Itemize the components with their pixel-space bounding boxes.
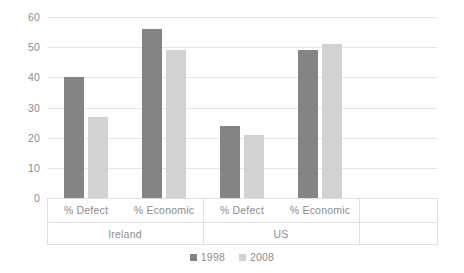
- category-label-1: % Economic: [125, 198, 203, 222]
- legend-label-1998: 1998: [201, 252, 225, 263]
- group-label-us: US: [203, 222, 359, 245]
- legend-item-1998[interactable]: 1998: [190, 252, 225, 263]
- y-axis-label-30: 30: [10, 103, 40, 114]
- legend-label-2008: 2008: [250, 252, 274, 263]
- legend-swatch-icon-2008: [239, 254, 246, 261]
- bar-1998-3: [298, 50, 318, 198]
- bar-chart: 0102030405060 % Defect% Economic% Defect…: [0, 0, 464, 273]
- legend-item-2008[interactable]: 2008: [239, 252, 274, 263]
- axis-separator-vertical-0: [47, 198, 48, 245]
- y-axis-label-50: 50: [10, 42, 40, 53]
- group-label-ireland: Ireland: [47, 222, 203, 245]
- y-axis-label-10: 10: [10, 163, 40, 174]
- bar-2008-1: [166, 50, 186, 198]
- axis-separator-vertical-3: [437, 198, 438, 245]
- axis-separator-vertical-1: [203, 198, 204, 245]
- bar-1998-2: [220, 126, 240, 198]
- axis-separator-bottom: [47, 244, 437, 245]
- y-axis-label-20: 20: [10, 133, 40, 144]
- bar-1998-1: [142, 29, 162, 198]
- bar-2008-3: [322, 44, 342, 198]
- category-label-2: % Defect: [203, 198, 281, 222]
- axis-separator-top: [47, 198, 437, 199]
- category-label-row: % Defect% Economic% Defect% Economic: [47, 198, 437, 222]
- bar-1998-0: [64, 77, 84, 198]
- y-axis-tick-labels: 0102030405060: [8, 17, 40, 198]
- category-label-0: % Defect: [47, 198, 125, 222]
- y-axis-label-0: 0: [10, 193, 40, 204]
- axis-separator-vertical-2: [359, 198, 360, 245]
- chart-legend: 19982008: [0, 252, 464, 263]
- bars-layer: [47, 17, 437, 198]
- category-label-3: % Economic: [281, 198, 359, 222]
- bar-2008-2: [244, 135, 264, 198]
- category-axis: % Defect% Economic% Defect% EconomicIrel…: [47, 198, 437, 245]
- bar-2008-0: [88, 117, 108, 198]
- y-axis-label-40: 40: [10, 72, 40, 83]
- axis-separator-middle: [47, 222, 437, 223]
- legend-swatch-icon-1998: [190, 254, 197, 261]
- y-axis-label-60: 60: [10, 12, 40, 23]
- group-label-row: IrelandUS: [47, 222, 437, 245]
